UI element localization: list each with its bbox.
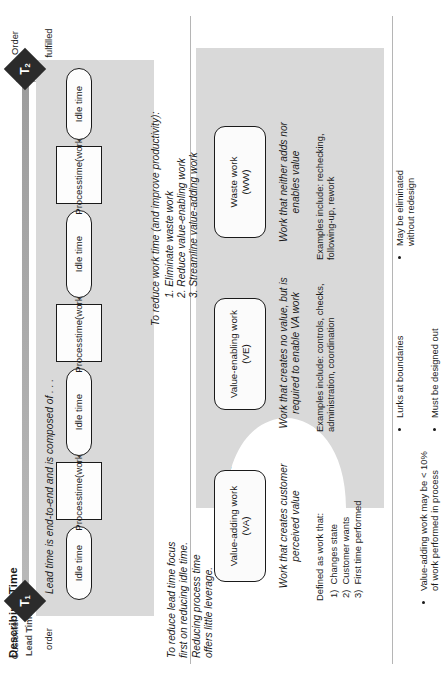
- timeline-axis: [22, 80, 29, 592]
- value-adding-detail-heading: Defined as work that:: [314, 513, 325, 601]
- timeline-block-idle: Idle time: [66, 526, 92, 600]
- value-enabling-bullet-list: Lurks at boundaries Must be designed out: [371, 258, 445, 428]
- marker-t1-subscript: 1: [23, 595, 32, 599]
- timeline-block-process: Process time (work): [56, 146, 102, 204]
- order-fulfilled-caption: Order fulfilled: [0, 8, 78, 78]
- value-adding-bullet: Value-adding work may be < 10% of work p…: [372, 421, 445, 601]
- timeline-block-process: Process time (work): [56, 304, 102, 362]
- waste-definition: Work that neither adds nor enables value: [278, 104, 303, 260]
- value-enabling-bullets: Lurks at boundaries Must be designed out: [348, 258, 445, 428]
- value-adding-detail-item: 3) First time performed: [352, 501, 363, 598]
- waste-detail-heading: Examples include: rechecking, following-…: [314, 133, 337, 260]
- timeline-block-process: Process time (work): [56, 462, 102, 520]
- work-category-box-value-adding: Value-adding work (VA): [214, 470, 266, 582]
- lead-time-caption: Lead time is end-to-end and is composed …: [44, 379, 56, 594]
- value-enabling-definition: Work that creates no value, but is requi…: [278, 274, 303, 432]
- list-item: May be eliminated without redesign: [394, 96, 417, 246]
- customer-order-caption: Customer order: [0, 608, 78, 670]
- value-adding-definition: Work that creates customer perceived val…: [278, 451, 303, 601]
- list-item: Must be designed out: [429, 258, 440, 418]
- value-adding-detail-item: 1) Changes state: [328, 524, 339, 598]
- waste-bullets: May be eliminated without redesign: [348, 96, 445, 256]
- timeline-block-idle: Idle time: [66, 210, 92, 298]
- reduce-work-time-step-2: 2. Reduce value-enabling work: [176, 158, 188, 298]
- work-category-box-value-enabling: Value-enabling work (VE): [214, 298, 266, 410]
- list-item: Lurks at boundaries: [394, 258, 405, 418]
- value-adding-bullet-list: Value-adding work may be < 10% of work p…: [395, 421, 445, 601]
- bottom-rule: [392, 16, 393, 664]
- waste-bullet-list: May be eliminated without redesign: [371, 96, 441, 256]
- section-divider: [190, 16, 191, 664]
- value-enabling-detail-heading: Examples include: controls, checks, admi…: [314, 283, 337, 432]
- list-item: Value-adding work may be < 10% of work p…: [418, 421, 441, 591]
- reduce-work-time-heading: To reduce work time (and improve product…: [150, 112, 162, 326]
- reduce-work-time-step-1: 1. Eliminate waste work: [164, 191, 176, 298]
- timeline-block-idle: Idle time: [66, 68, 92, 140]
- timeline-block-idle: Idle time: [66, 368, 92, 456]
- value-adding-detail-item: 2) Customer wants: [340, 517, 351, 598]
- reduce-work-time-step-3: 3. Streamline value-adding work: [188, 152, 200, 298]
- work-category-box-waste: Waste work (WW): [214, 126, 266, 238]
